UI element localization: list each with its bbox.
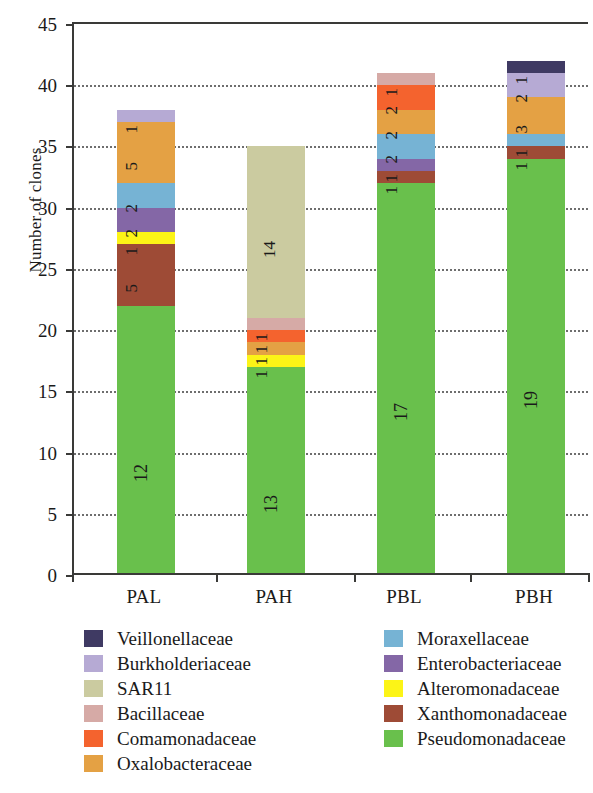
y-axis-tick: 10: [66, 453, 74, 455]
legend-label: Burkholderiaceae: [117, 653, 251, 675]
legend-swatch-icon: [84, 705, 103, 722]
x-axis-label-pbl: PBL: [344, 586, 464, 608]
y-axis-tick-label: 10: [38, 444, 57, 464]
legend-item-alteromonadaceae[interactable]: Alteromonadaceae: [384, 676, 567, 701]
stacked-bar-chart: Number of clones 051015202530354045 1251…: [0, 0, 593, 620]
legend-item-xanthomonadaceae[interactable]: Xanthomonadaceae: [384, 701, 567, 726]
legend-item-bacillaceae[interactable]: Bacillaceae: [84, 701, 256, 726]
segment-value-label: 5: [123, 162, 140, 171]
segment-value-label: 1: [253, 333, 270, 342]
bar-pal[interactable]: [117, 24, 175, 575]
x-axis-label-pal: PAL: [84, 586, 204, 608]
segment-value-label: 2: [123, 229, 140, 238]
legend-swatch-icon: [384, 655, 403, 672]
y-axis-tick: 45: [66, 24, 74, 26]
segment-value-label: 2: [383, 131, 400, 140]
legend-item-moraxellaceae[interactable]: Moraxellaceae: [384, 626, 567, 651]
segment-value-label: 1: [253, 345, 270, 354]
segment-value-label: 5: [123, 284, 140, 293]
legend-label: Alteromonadaceae: [417, 678, 559, 700]
bar-segment-moraxellaceae[interactable]: [507, 134, 565, 146]
legend-label: SAR11: [117, 678, 172, 700]
segment-value-label: 3: [513, 125, 530, 134]
legend-item-pseudomonadaceae[interactable]: Pseudomonadaceae: [384, 726, 567, 751]
legend-label: Xanthomonadaceae: [417, 703, 567, 725]
y-axis-tick-label: 0: [48, 566, 58, 586]
y-axis-tick-label: 35: [38, 137, 57, 157]
x-axis-label-pah: PAH: [214, 586, 334, 608]
legend-item-veillonellaceae[interactable]: Veillonellaceae: [84, 626, 256, 651]
y-axis-tick: 20: [66, 330, 74, 332]
segment-value-label: 1: [383, 186, 400, 195]
segment-value-label: 13: [262, 495, 280, 513]
bar-segment-bacillaceae[interactable]: [377, 73, 435, 85]
y-axis-tick: 40: [66, 85, 74, 87]
legend-swatch-icon: [84, 730, 103, 747]
x-axis-tick: [216, 573, 218, 582]
bar-segment-pseudomonadaceae[interactable]: [247, 367, 305, 575]
x-axis-line: [72, 573, 588, 575]
legend-label: Enterobacteriaceae: [417, 653, 562, 675]
plot-area: 051015202530354045 125122511311111417112…: [72, 22, 588, 575]
legend-swatch-icon: [384, 680, 403, 697]
legend-label: Comamonadaceae: [117, 728, 256, 750]
segment-value-label: 2: [383, 155, 400, 164]
segment-value-label: 19: [522, 391, 540, 409]
segment-value-label: 14: [261, 241, 278, 258]
segment-value-label: 2: [513, 94, 530, 103]
bar-pbh[interactable]: [507, 24, 565, 575]
x-axis-label-pbh: PBH: [474, 586, 593, 608]
legend-swatch-icon: [84, 630, 103, 647]
y-axis-tick: 5: [66, 514, 74, 516]
y-axis-tick-label: 15: [38, 382, 57, 402]
bar-segment-veillonellaceae[interactable]: [507, 61, 565, 73]
bar-segment-sar11[interactable]: [247, 146, 305, 317]
x-axis-tick: [72, 573, 74, 582]
segment-value-label: 1: [383, 88, 400, 97]
legend-item-sar11[interactable]: SAR11: [84, 676, 256, 701]
segment-value-label: 1: [253, 357, 270, 366]
legend-label: Veillonellaceae: [117, 628, 233, 650]
x-axis-tick: [588, 573, 590, 582]
legend-item-enterobacteriaceae[interactable]: Enterobacteriaceae: [384, 651, 567, 676]
bar-segment-pseudomonadaceae[interactable]: [507, 159, 565, 575]
segment-value-label: 1: [123, 125, 140, 134]
segment-value-label: 2: [383, 106, 400, 115]
legend-label: Bacillaceae: [117, 703, 205, 725]
segment-value-label: 1: [513, 162, 530, 171]
segment-value-label: 1: [513, 149, 530, 158]
y-axis-tick-label: 40: [38, 76, 57, 96]
y-axis-tick: 35: [66, 146, 74, 148]
y-axis-tick-label: 30: [38, 199, 57, 219]
bar-segment-pseudomonadaceae[interactable]: [117, 306, 175, 575]
legend-column-left: VeillonellaceaeBurkholderiaceaeSAR11Baci…: [84, 626, 256, 776]
bar-segment-pseudomonadaceae[interactable]: [377, 183, 435, 575]
legend-item-comamonadaceae[interactable]: Comamonadaceae: [84, 726, 256, 751]
y-axis-tick: 30: [66, 208, 74, 210]
y-axis-tick-label: 25: [38, 260, 57, 280]
legend-item-oxalobacteraceae[interactable]: Oxalobacteraceae: [84, 751, 256, 776]
y-axis-tick-label: 45: [38, 15, 57, 35]
legend-label: Oxalobacteraceae: [117, 753, 252, 775]
legend-swatch-icon: [384, 705, 403, 722]
y-axis-tick: 15: [66, 391, 74, 393]
legend-swatch-icon: [84, 655, 103, 672]
y-axis-tick-label: 5: [48, 505, 58, 525]
segment-value-label: 12: [132, 464, 150, 482]
legend-swatch-icon: [384, 630, 403, 647]
legend-swatch-icon: [384, 730, 403, 747]
x-axis-tick: [354, 573, 356, 582]
bar-pah[interactable]: [247, 24, 305, 575]
legend: VeillonellaceaeBurkholderiaceaeSAR11Baci…: [0, 626, 593, 793]
y-axis-tick-label: 20: [38, 321, 57, 341]
legend-label: Moraxellaceae: [417, 628, 529, 650]
segment-value-label: 17: [392, 403, 410, 421]
bar-segment-burkholderiaceae[interactable]: [117, 110, 175, 122]
y-axis-tick: 25: [66, 269, 74, 271]
bar-segment-bacillaceae[interactable]: [247, 318, 305, 330]
segment-value-label: 2: [123, 204, 140, 213]
legend-label: Pseudomonadaceae: [417, 728, 566, 750]
segment-value-label: 1: [383, 174, 400, 183]
segment-value-label: 1: [513, 76, 530, 85]
legend-item-burkholderiaceae[interactable]: Burkholderiaceae: [84, 651, 256, 676]
